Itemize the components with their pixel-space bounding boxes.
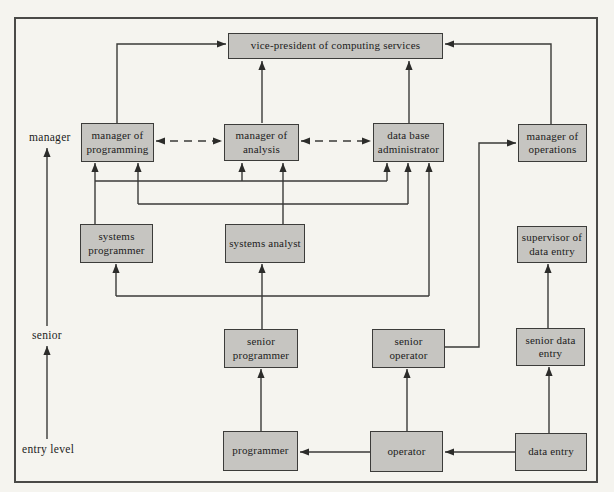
node-senior-programmer: senior programmer — [224, 329, 298, 368]
node-programmer: programmer — [223, 431, 298, 471]
node-systems-analyst: systems analyst — [225, 224, 305, 263]
axis-label-senior: senior — [32, 329, 62, 341]
node-manager-of-programming: manager of programming — [81, 123, 154, 162]
node-systems-programmer: systems programmer — [80, 224, 153, 263]
edge-mgroperations-vp — [445, 44, 551, 124]
axis-label-entry-level: entry level — [22, 443, 74, 455]
node-data-entry: data entry — [515, 433, 587, 471]
node-manager-of-analysis: manager of analysis — [224, 124, 299, 161]
node-vice-president: vice-president of computing services — [228, 33, 443, 59]
career-path-diagram: vice-president of computing services man… — [0, 0, 614, 492]
node-senior-data-entry: senior data entry — [516, 328, 585, 366]
node-supervisor-of-data-entry: supervisor of data entry — [517, 226, 587, 263]
axis-label-manager: manager — [29, 131, 71, 143]
edge-mgrprogramming-vp — [117, 44, 226, 123]
node-operator: operator — [370, 431, 443, 472]
edge-sroperator-mgroperations — [445, 143, 516, 347]
node-data-base-administrator: data base administrator — [373, 123, 444, 162]
node-manager-of-operations: manager of operations — [518, 124, 587, 162]
node-senior-operator: senior operator — [372, 329, 445, 368]
